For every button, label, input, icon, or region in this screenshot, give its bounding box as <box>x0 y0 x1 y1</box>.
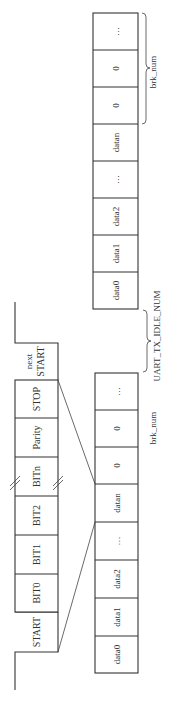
lower-cell-datan: datan <box>112 493 122 513</box>
upper-cell-ellipsis-2: … <box>111 27 121 36</box>
upper-cell-data2: data2 <box>111 207 121 227</box>
connector-line-stop <box>58 380 95 484</box>
cell-label-bitn: BITn <box>31 466 42 487</box>
upper-cell-datan: datan <box>111 132 121 152</box>
upper-brk-num-label: brk_num <box>148 56 158 89</box>
cell-label-start: START <box>31 617 42 647</box>
cell-label-bit0: BIT0 <box>31 582 42 603</box>
upper-cell-ellipsis: … <box>111 175 121 184</box>
cell-label-bit2: BIT2 <box>31 505 42 526</box>
lower-cell-data2: data2 <box>112 569 122 589</box>
cell-label-next-start: START <box>35 346 46 376</box>
upper-cell-data1: data1 <box>111 244 121 264</box>
lower-cell-zero-1: 0 <box>112 463 122 468</box>
lower-cell-data1: data1 <box>112 607 122 627</box>
cell-label-parity: Parity <box>31 426 42 450</box>
uart-frame-diagram: START BIT0 BIT1 BIT2 BITn Parity STOP ne… <box>0 0 183 717</box>
idle-num-label: UART_TX_IDLE_NUM <box>152 291 162 382</box>
lower-cell-ellipsis-2: … <box>112 387 122 396</box>
idle-gap-brace-icon <box>143 310 151 372</box>
upper-data-strip: data0 data1 data2 … datan 0 0 … <box>93 13 138 309</box>
cell-label-next: next <box>24 353 34 369</box>
lower-brk-num-label: brk_num <box>148 412 158 445</box>
upper-cell-zero-1: 0 <box>111 103 121 108</box>
lower-cell-data0: data0 <box>112 644 122 664</box>
cell-label-bit1: BIT1 <box>31 544 42 565</box>
upper-cell-data0: data0 <box>111 280 121 300</box>
lower-cell-ellipsis: … <box>112 537 122 546</box>
connector-line-start <box>58 522 95 652</box>
lower-data-strip: data0 data1 data2 … datan 0 0 … brk_num <box>95 373 158 673</box>
lower-cell-zero-2: 0 <box>112 426 122 431</box>
cell-label-stop: STOP <box>31 386 42 411</box>
upper-cell-zero-2: 0 <box>111 66 121 71</box>
uart-waveform: START BIT0 BIT1 BIT2 BITn Parity STOP ne… <box>10 302 63 690</box>
